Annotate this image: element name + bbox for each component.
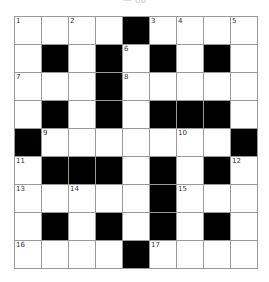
clue-number: 14 [70,185,79,194]
clue-number: 9 [43,129,47,138]
clue-number: 1 [16,17,20,26]
answer-cell[interactable] [69,241,96,269]
block-cell [150,101,177,129]
clue-number: 17 [151,241,160,250]
answer-cell[interactable]: 13 [15,185,42,213]
answer-cell[interactable] [231,185,258,213]
answer-cell[interactable] [204,185,231,213]
clue-number: 4 [178,17,182,26]
clue-number: 5 [232,17,236,26]
clue-number: 6 [124,45,128,54]
answer-cell[interactable] [69,213,96,241]
answer-cell[interactable]: 11 [15,157,42,185]
clue-number: 12 [232,157,241,166]
block-cell [96,157,123,185]
answer-cell[interactable] [231,73,258,101]
answer-cell[interactable]: 5 [231,17,258,45]
clue-number: 11 [16,157,25,166]
answer-cell[interactable] [231,101,258,129]
block-cell [177,101,204,129]
block-cell [69,157,96,185]
answer-cell[interactable] [123,129,150,157]
answer-cell[interactable] [204,17,231,45]
block-cell [204,157,231,185]
answer-cell[interactable] [96,129,123,157]
answer-cell[interactable] [177,241,204,269]
answer-cell[interactable] [42,17,69,45]
clue-number: 15 [178,185,187,194]
answer-cell[interactable] [177,73,204,101]
answer-cell[interactable] [177,157,204,185]
answer-cell[interactable] [15,45,42,73]
answer-cell[interactable] [123,157,150,185]
block-cell [96,213,123,241]
answer-cell[interactable]: 16 [15,241,42,269]
crossword-grid: 1234567891011121314151617 [14,16,258,269]
answer-cell[interactable]: 10 [177,129,204,157]
block-cell [96,73,123,101]
block-cell [150,185,177,213]
block-cell [150,45,177,73]
answer-cell[interactable] [177,213,204,241]
answer-cell[interactable] [15,101,42,129]
block-cell [123,241,150,269]
block-cell [42,157,69,185]
answer-cell[interactable]: 15 [177,185,204,213]
answer-cell[interactable] [69,73,96,101]
answer-cell[interactable] [96,185,123,213]
answer-cell[interactable]: 1 [15,17,42,45]
answer-cell[interactable] [231,213,258,241]
block-cell [150,157,177,185]
answer-cell[interactable] [42,185,69,213]
answer-cell[interactable] [123,213,150,241]
answer-cell[interactable] [96,241,123,269]
answer-cell[interactable] [204,129,231,157]
answer-cell[interactable]: 17 [150,241,177,269]
answer-cell[interactable]: 6 [123,45,150,73]
answer-cell[interactable] [204,73,231,101]
clue-number: 7 [16,73,20,82]
clue-number: 16 [16,241,25,250]
answer-cell[interactable] [123,185,150,213]
answer-cell[interactable] [42,241,69,269]
answer-cell[interactable] [15,213,42,241]
answer-cell[interactable] [96,17,123,45]
answer-cell[interactable]: 4 [177,17,204,45]
answer-cell[interactable] [69,45,96,73]
answer-cell[interactable] [42,73,69,101]
clue-number: 3 [151,17,155,26]
block-cell [123,17,150,45]
answer-cell[interactable]: 9 [42,129,69,157]
answer-cell[interactable]: 7 [15,73,42,101]
answer-cell[interactable] [204,241,231,269]
answer-cell[interactable]: 3 [150,17,177,45]
answer-cell[interactable]: 8 [123,73,150,101]
block-cell [231,129,258,157]
answer-cell[interactable] [231,241,258,269]
clue-number: 13 [16,185,25,194]
block-cell [96,101,123,129]
block-cell [204,45,231,73]
block-cell [204,101,231,129]
block-cell [204,213,231,241]
answer-cell[interactable]: 14 [69,185,96,213]
answer-cell[interactable] [69,101,96,129]
answer-cell[interactable] [177,45,204,73]
answer-cell[interactable] [231,45,258,73]
answer-cell[interactable] [150,73,177,101]
block-cell [42,101,69,129]
answer-cell[interactable] [69,129,96,157]
block-cell [150,213,177,241]
clue-number: 8 [124,73,128,82]
clue-number: 2 [70,17,74,26]
block-cell [96,45,123,73]
answer-cell[interactable] [123,101,150,129]
block-cell [42,45,69,73]
block-cell [15,129,42,157]
answer-cell[interactable]: 12 [231,157,258,185]
answer-cell[interactable]: 2 [69,17,96,45]
answer-cell[interactable] [150,129,177,157]
clue-number: 10 [178,129,187,138]
puzzle-header-label: — 00 [0,0,269,5]
block-cell [42,213,69,241]
